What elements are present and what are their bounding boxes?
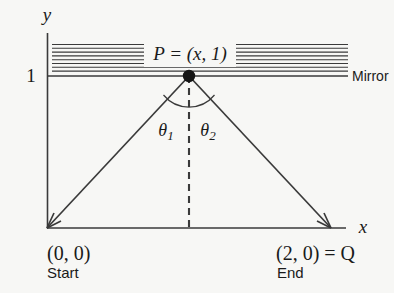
start-coords-label: (0, 0): [47, 242, 90, 265]
theta-2-subscript: 2: [209, 128, 216, 143]
theta-1-subscript: 1: [167, 128, 174, 143]
end-name-label: End: [277, 264, 304, 281]
mirror-label: Mirror: [352, 68, 389, 84]
start-name-label: Start: [47, 264, 80, 281]
point-p-label: P = (x, 1): [152, 43, 227, 65]
y-axis-label: y: [41, 4, 52, 25]
theta-2-symbol: θ: [200, 120, 209, 140]
reflection-diagram: y x 1 P = (x, 1) Mirror θ1 θ2 (0, 0) Sta…: [0, 0, 394, 293]
x-axis-label: x: [358, 216, 368, 237]
theta-2-label: θ2: [200, 120, 216, 143]
theta-1-label: θ1: [158, 120, 173, 143]
point-p-marker: [183, 70, 195, 82]
end-coords-label: (2, 0) = Q: [276, 242, 356, 265]
theta-1-symbol: θ: [158, 120, 167, 140]
y-tick-label-1: 1: [26, 65, 36, 86]
